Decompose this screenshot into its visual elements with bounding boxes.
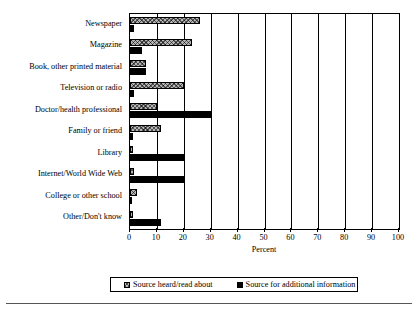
bar-heard-read-about <box>130 82 184 89</box>
category-label: Book, other printed material <box>0 62 122 71</box>
x-tick-0 <box>129 228 130 232</box>
bar-group <box>130 14 399 36</box>
x-tick-label-60: 60 <box>275 233 305 243</box>
bar-heard-read-about <box>130 17 200 24</box>
bar-additional-information <box>130 154 185 161</box>
x-tick-80 <box>344 228 345 232</box>
bar-heard-read-about <box>130 103 157 110</box>
x-tick-label-40: 40 <box>222 233 252 243</box>
category-label: Other/Don't know <box>0 212 122 221</box>
bar-group <box>130 79 399 101</box>
category-label: College or other school <box>0 191 122 200</box>
legend-item-source-heard-read-about: Source heard/read about <box>124 280 213 290</box>
category-label: Family or friend <box>0 126 122 135</box>
bar-additional-information <box>130 197 132 204</box>
bar-heard-read-about <box>130 211 133 218</box>
x-tick-label-90: 90 <box>356 233 386 243</box>
footer-divider <box>6 303 412 304</box>
x-tick-60 <box>290 228 291 232</box>
bar-additional-information <box>130 25 134 32</box>
x-tick-90 <box>371 228 372 232</box>
category-label: Doctor/health professional <box>0 105 122 114</box>
x-tick-50 <box>264 228 265 232</box>
hatched-square-icon <box>124 282 130 288</box>
bar-additional-information <box>130 219 161 226</box>
plot-area <box>129 13 400 230</box>
x-tick-label-50: 50 <box>249 233 279 243</box>
bar-group <box>130 122 399 144</box>
bar-heard-read-about <box>130 146 133 153</box>
x-tick-20 <box>183 228 184 232</box>
legend-item-source-for-additional-information: Source for additional information <box>237 280 356 290</box>
x-tick-label-100: 100 <box>383 233 413 243</box>
category-label: Newspaper <box>0 19 122 28</box>
bar-additional-information <box>130 133 133 140</box>
x-tick-label-70: 70 <box>302 233 332 243</box>
x-axis-title: Percent <box>129 245 399 255</box>
gridline-100 <box>399 14 400 229</box>
bar-group <box>130 186 399 208</box>
bar-additional-information <box>130 68 146 75</box>
bar-additional-information <box>130 47 142 54</box>
bar-heard-read-about <box>130 39 192 46</box>
category-label: Television or radio <box>0 83 122 92</box>
category-label: Internet/World Wide Web <box>0 169 122 178</box>
bar-group <box>130 100 399 122</box>
bar-chart-figure: NewspaperMagazineBook, other printed mat… <box>0 0 419 311</box>
bar-heard-read-about <box>130 189 137 196</box>
bar-heard-read-about <box>130 60 146 67</box>
x-tick-label-0: 0 <box>114 233 144 243</box>
bar-group <box>130 165 399 187</box>
legend-label-heard: Source heard/read about <box>133 280 213 290</box>
x-tick-label-30: 30 <box>195 233 225 243</box>
bar-group <box>130 208 399 230</box>
x-tick-100 <box>398 228 399 232</box>
bar-group <box>130 57 399 79</box>
category-axis-labels: NewspaperMagazineBook, other printed mat… <box>0 13 126 228</box>
bar-group <box>130 36 399 58</box>
x-tick-70 <box>317 228 318 232</box>
bar-additional-information <box>130 176 184 183</box>
x-tick-40 <box>237 228 238 232</box>
bar-group <box>130 143 399 165</box>
bar-heard-read-about <box>130 125 161 132</box>
x-tick-label-80: 80 <box>329 233 359 243</box>
x-tick-label-10: 10 <box>141 233 171 243</box>
x-tick-label-20: 20 <box>168 233 198 243</box>
bar-additional-information <box>130 111 211 118</box>
category-label: Magazine <box>0 40 122 49</box>
legend-label-additional: Source for additional information <box>246 280 356 290</box>
category-label: Library <box>0 148 122 157</box>
bar-heard-read-about <box>130 168 134 175</box>
bar-additional-information <box>130 90 134 97</box>
x-axis-tick-labels: 0102030405060708090100 <box>0 233 419 245</box>
chart-legend: Source heard/read about Source for addit… <box>110 277 358 292</box>
x-tick-30 <box>210 228 211 232</box>
x-tick-10 <box>156 228 157 232</box>
filled-square-icon <box>237 282 243 288</box>
